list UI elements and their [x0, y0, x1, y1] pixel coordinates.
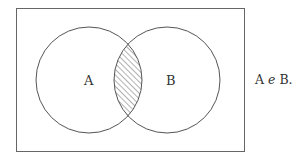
caption-connector: e — [268, 72, 275, 87]
caption-set-b: B. — [279, 72, 292, 87]
set-a-label: A — [83, 73, 94, 88]
diagram-caption: A e B. — [255, 72, 293, 87]
caption-set-a: A — [255, 72, 264, 87]
set-b-label: B — [166, 73, 176, 88]
